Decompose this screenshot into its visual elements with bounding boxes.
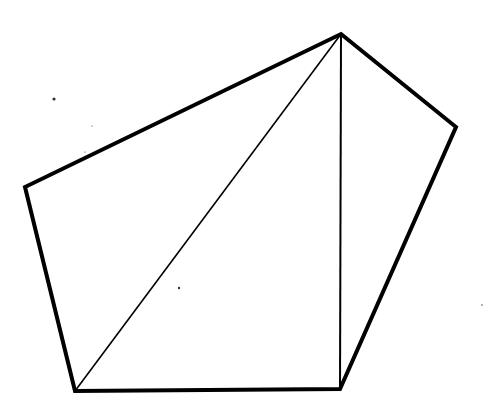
pentagon-diagram bbox=[0, 0, 492, 406]
pentagon-outline bbox=[25, 34, 456, 391]
speck bbox=[91, 125, 92, 126]
speck bbox=[84, 151, 85, 152]
diagonal-lines bbox=[75, 34, 341, 391]
speck bbox=[178, 287, 180, 289]
speck bbox=[481, 304, 482, 305]
speck bbox=[52, 97, 55, 100]
diagonal-top-to-bottom_right bbox=[340, 34, 341, 389]
print-specks bbox=[52, 97, 482, 305]
diagonal-top-to-bottom_left bbox=[75, 34, 341, 391]
